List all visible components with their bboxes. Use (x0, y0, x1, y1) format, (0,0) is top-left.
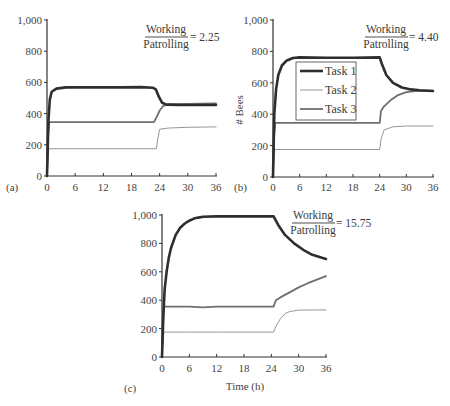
x-axis-title: Time (h) (226, 380, 265, 393)
series-line-task2 (273, 126, 433, 177)
panel-c-ratio: Working Patrolling = 15.75 (290, 209, 371, 237)
x-tick-label: 30 (401, 181, 413, 193)
legend-label-task1: Task 1 (325, 64, 357, 78)
x-tick-label: 24 (266, 362, 278, 374)
y-tick-label: 800 (26, 45, 43, 57)
x-tick-label: 36 (428, 181, 440, 193)
y-tick-label: 1,000 (132, 209, 157, 221)
panel-b-ratio-denominator: Patrolling (363, 38, 409, 51)
panel-a-ratio-value: = 2.25 (190, 31, 220, 43)
x-tick-label: 12 (321, 181, 332, 193)
y-tick-label: 1,000 (243, 14, 268, 26)
y-tick-label: 600 (141, 266, 158, 278)
y-tick-label: 600 (252, 77, 269, 89)
panel-b-ratio-value: = 4.40 (409, 31, 439, 43)
panel-b: 02004006008001,000061218243036 (b) # Bee… (233, 14, 439, 194)
x-tick-label: 30 (293, 362, 305, 374)
y-tick-label: 800 (252, 45, 269, 57)
panel-a: 02004006008001,000061218243036 (a) Worki… (6, 14, 222, 194)
panel-c-lines (162, 216, 326, 357)
y-tick-label: 200 (26, 139, 43, 151)
y-tick-label: 0 (37, 170, 43, 182)
x-tick-label: 30 (182, 181, 194, 193)
panel-a-label: (a) (6, 181, 19, 194)
x-tick-label: 6 (72, 181, 78, 193)
x-tick-label: 36 (211, 181, 223, 193)
panel-c-ratio-value: = 15.75 (336, 217, 371, 229)
legend: Task 1 Task 2 Task 3 (296, 62, 357, 120)
x-tick-label: 12 (98, 181, 109, 193)
panel-a-ratio: Working Patrolling = 2.25 (143, 23, 219, 51)
x-tick-label: 24 (374, 181, 386, 193)
x-tick-label: 0 (159, 362, 165, 374)
x-tick-label: 0 (270, 181, 276, 193)
y-tick-label: 200 (252, 140, 269, 152)
legend-label-task2: Task 2 (325, 83, 357, 97)
panel-b-ratio-numerator: Working (366, 23, 406, 36)
y-tick-label: 0 (152, 351, 158, 363)
series-line-task3 (47, 104, 216, 177)
y-tick-label: 400 (141, 294, 158, 306)
x-tick-label: 18 (126, 181, 138, 193)
legend-label-task3: Task 3 (325, 102, 357, 116)
y-tick-label: 400 (26, 108, 43, 120)
x-tick-label: 6 (187, 362, 193, 374)
y-tick-label: 400 (252, 108, 269, 120)
panel-c-label: (c) (124, 382, 137, 395)
x-tick-label: 0 (44, 181, 50, 193)
x-tick-label: 6 (297, 181, 303, 193)
series-line-task3 (162, 276, 326, 357)
y-tick-label: 200 (141, 323, 158, 335)
series-line-task1 (47, 87, 216, 176)
y-axis-title: # Bees (233, 95, 245, 125)
x-tick-label: 18 (239, 362, 251, 374)
y-tick-label: 600 (26, 76, 43, 88)
y-tick-label: 800 (141, 237, 158, 249)
series-line-task2 (162, 310, 326, 357)
x-tick-label: 36 (321, 362, 333, 374)
y-tick-label: 0 (263, 171, 269, 183)
panel-b-ratio: Working Patrolling = 4.40 (363, 23, 438, 51)
panel-c-ratio-numerator: Working (293, 209, 333, 222)
x-tick-label: 12 (211, 362, 222, 374)
panel-b-label: (b) (234, 181, 247, 194)
panel-a-ratio-denominator: Patrolling (143, 38, 189, 51)
figure-canvas: 02004006008001,000061218243036 (a) Worki… (0, 0, 450, 406)
panel-c: 02004006008001,000061218243036 (c) Time … (124, 209, 371, 395)
x-tick-label: 24 (154, 181, 166, 193)
panel-a-ratio-numerator: Working (146, 23, 186, 36)
x-tick-label: 18 (348, 181, 360, 193)
series-line-task2 (47, 127, 216, 176)
y-tick-label: 1,000 (17, 14, 42, 26)
panel-c-ratio-denominator: Patrolling (290, 224, 336, 237)
panel-a-lines (47, 87, 216, 176)
